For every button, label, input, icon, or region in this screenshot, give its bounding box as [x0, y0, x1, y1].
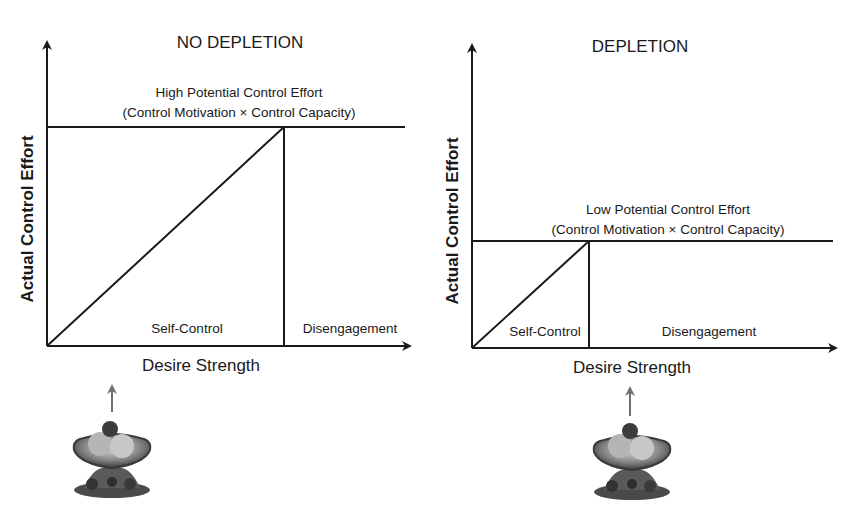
- actual-effort-diagonal: [47, 127, 284, 346]
- potential-effort-label: High Potential Control Effort: [155, 85, 322, 100]
- region-disengagement: Disengagement: [662, 324, 757, 339]
- region-disengagement: Disengagement: [303, 321, 398, 336]
- food-image-icon: [594, 423, 671, 500]
- y-axis-label: Actual Control Effort: [443, 137, 462, 304]
- potential-effort-label: Low Potential Control Effort: [586, 202, 750, 217]
- potential-effort-formula: (Control Motivation × Control Capacity): [552, 222, 785, 237]
- region-self-control: Self-Control: [151, 321, 222, 336]
- x-axis-label: Desire Strength: [573, 358, 691, 377]
- panel-no-depletion: NO DEPLETION High Potential Control Effo…: [18, 33, 410, 498]
- panel-title: DEPLETION: [592, 37, 688, 56]
- x-axis-label: Desire Strength: [142, 356, 260, 375]
- region-self-control: Self-Control: [509, 324, 580, 339]
- potential-effort-formula: (Control Motivation × Control Capacity): [123, 105, 356, 120]
- y-axis-label: Actual Control Effort: [18, 135, 37, 302]
- panel-title: NO DEPLETION: [177, 33, 304, 52]
- panel-depletion: DEPLETION Low Potential Control Effort (…: [443, 37, 836, 500]
- food-image-icon: [74, 421, 151, 498]
